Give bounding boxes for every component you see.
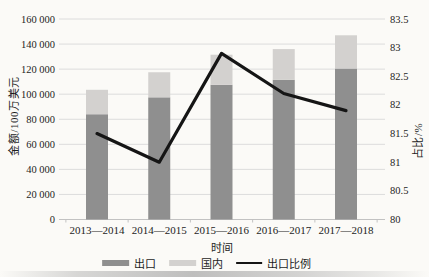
right-axis-tick-label: 80.5 <box>390 185 408 196</box>
left-axis-tick-label: 0 <box>50 214 55 225</box>
x-axis-category-label: 2014—2015 <box>132 224 188 236</box>
left-axis-title: 金额/100万美元 <box>5 76 21 155</box>
domestic-bar-segment <box>273 49 295 80</box>
right-axis-tick-label: 83 <box>390 42 401 53</box>
domestic-bar-segment <box>335 35 357 68</box>
left-axis-tick-label: 120 000 <box>21 64 55 75</box>
export-bar-segment <box>273 80 295 220</box>
right-axis-tick-label: 81 <box>390 157 401 168</box>
left-axis-tick-label: 20 000 <box>26 189 55 200</box>
legend-item-export-ratio: 出口比例 <box>236 255 311 271</box>
chart-legend: 出口 国内 出口比例 <box>102 255 311 271</box>
legend-label-export-ratio: 出口比例 <box>267 255 311 271</box>
x-axis-title: 时间 <box>211 239 234 255</box>
left-axis-tick-label: 160 000 <box>21 14 55 25</box>
right-axis-tick-label: 81.5 <box>390 128 408 139</box>
right-axis-tick-label: 82.5 <box>390 71 408 82</box>
left-axis-tick-label: 60 000 <box>26 139 55 150</box>
legend-label-export: 出口 <box>134 255 156 271</box>
legend-item-domestic: 国内 <box>169 255 223 271</box>
left-axis-tick-label: 40 000 <box>26 164 55 175</box>
domestic-bar-swatch-icon <box>169 260 196 266</box>
right-axis-tick-label: 80 <box>390 214 401 225</box>
export-bar-segment <box>335 68 357 219</box>
right-axis-title: 占比/% <box>409 123 425 159</box>
legend-label-domestic: 国内 <box>201 255 223 271</box>
domestic-bar-segment <box>86 90 108 114</box>
x-axis-category-label: 2013—2014 <box>70 224 126 236</box>
left-axis-tick-label: 100 000 <box>21 89 55 100</box>
legend-item-export: 出口 <box>102 255 156 271</box>
right-axis-tick-label: 82 <box>390 99 401 110</box>
x-axis-category-label: 2015—2016 <box>194 224 250 236</box>
chart-plot-area: 020 00040 00060 00080 000100 000120 0001… <box>0 0 429 277</box>
left-axis-tick-label: 140 000 <box>21 39 55 50</box>
export-bar-swatch-icon <box>102 260 129 266</box>
chart-figure: 020 00040 00060 00080 000100 000120 0001… <box>0 0 429 277</box>
domestic-bar-segment <box>148 72 170 97</box>
left-axis-tick-label: 80 000 <box>26 114 55 125</box>
scan-artifact-band <box>0 271 429 277</box>
right-axis-tick-label: 83.5 <box>390 14 408 25</box>
export-bar-segment <box>211 85 233 220</box>
x-axis-category-label: 2017—2018 <box>319 224 375 236</box>
x-axis-category-label: 2016—2017 <box>256 224 312 236</box>
export-bar-segment <box>86 114 108 219</box>
export-ratio-line-swatch-icon <box>236 262 262 264</box>
